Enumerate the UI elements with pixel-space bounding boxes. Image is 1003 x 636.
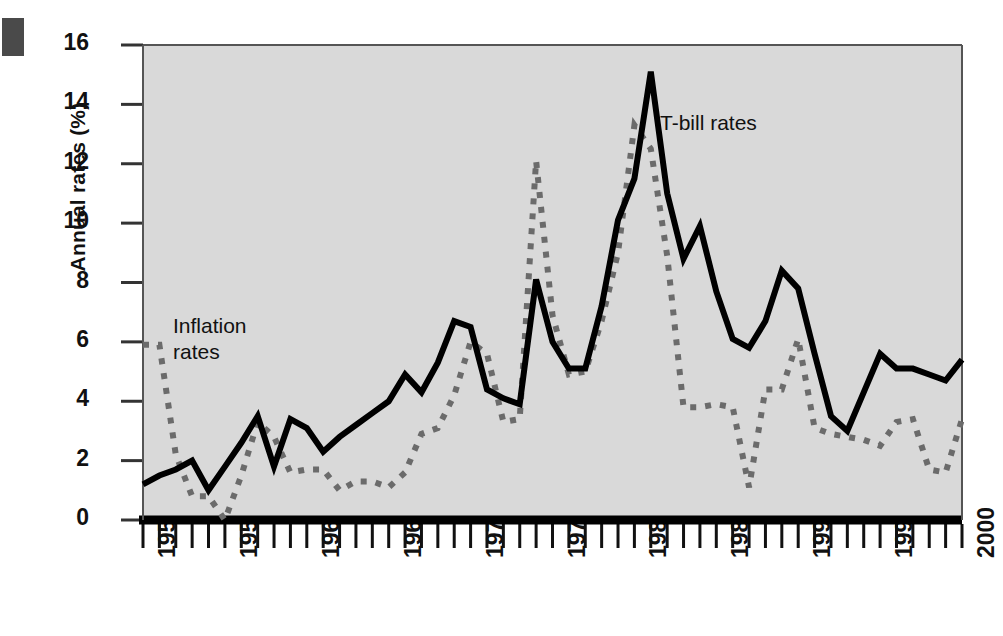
plot-canvas [0, 0, 1003, 636]
annotation-line: rates [173, 339, 247, 365]
chart-figure: Annual rates (%) 0246810121416 195019551… [0, 0, 1003, 636]
annotation-inflation-rates: Inflationrates [173, 313, 247, 366]
x-axis-tick-marks [143, 524, 962, 548]
annotation-line: Inflation [173, 313, 247, 339]
annotation-t-bill-rates: T-bill rates [660, 110, 757, 136]
y-axis-tick-marks [121, 45, 143, 520]
